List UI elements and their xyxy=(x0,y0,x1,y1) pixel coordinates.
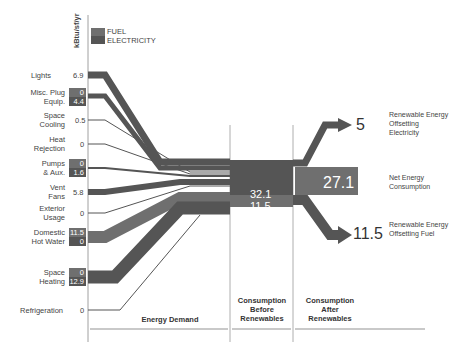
consumption-fuel: 11.5 xyxy=(250,200,271,212)
label-space-heating: Space Heating xyxy=(35,268,65,286)
heating-electricity: 12.9 xyxy=(69,277,86,286)
label-heat-rejection: Heat Rejection xyxy=(33,135,65,153)
label-pumps: Pumps & Aux. xyxy=(35,159,65,177)
value-refrigeration: 0 xyxy=(80,306,84,315)
section-demand: Energy Demand xyxy=(120,315,220,324)
value-space-cooling: 0.5 xyxy=(75,116,85,125)
label-space-cooling: Space Cooling xyxy=(33,111,65,129)
label-dhw: Domestic Hot Water xyxy=(25,228,65,246)
section-before: Consumption Before Renewables xyxy=(232,296,292,323)
net-label: Net Energy Consumption xyxy=(389,173,434,191)
label-vent-fans: Vent Fans xyxy=(39,183,65,201)
misc-electricity: 4.4 xyxy=(69,97,86,106)
dhw-fuel: 11.5 xyxy=(69,228,86,237)
renewable-electricity-label: Renewable Energy Offsetting Electricity xyxy=(389,110,449,137)
axis-label: kBtu/sf/yr xyxy=(72,13,81,48)
value-exterior: 0 xyxy=(80,209,84,218)
dhw-electricity: 0 xyxy=(69,237,86,246)
value-lights: 6.9 xyxy=(73,71,83,80)
net-value: 27.1 xyxy=(323,174,354,192)
renewable-electricity-value: 5 xyxy=(356,116,365,134)
label-lights: Lights xyxy=(31,71,51,80)
section-after: Consumption After Renewables xyxy=(300,296,360,323)
renewable-fuel-label: Renewable Energy Offsetting Fuel xyxy=(389,220,449,238)
consumption-electricity: 32.1 xyxy=(250,188,271,200)
misc-fuel: 0 xyxy=(69,88,86,97)
renewable-fuel-value: 11.5 xyxy=(353,225,383,243)
value-heat-rejection: 0 xyxy=(80,140,84,149)
value-vent-fans: 5.8 xyxy=(73,188,83,197)
label-exterior: Exterior Usage xyxy=(31,204,65,222)
legend-fuel: FUEL xyxy=(107,27,126,36)
pumps-electricity: 1.6 xyxy=(69,168,86,177)
legend-electricity: ELECTRICITY xyxy=(107,36,156,45)
heating-fuel: 0 xyxy=(69,268,86,277)
label-refrigeration: Refrigeration xyxy=(20,306,63,315)
label-misc: Misc. Plug Equip. xyxy=(25,88,65,106)
pumps-fuel: 0 xyxy=(69,159,86,168)
